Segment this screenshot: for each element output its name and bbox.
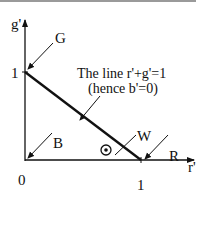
- point-label-r: R: [169, 148, 179, 164]
- x-tick-label: 1: [137, 177, 145, 193]
- point-label-b: B: [53, 135, 63, 151]
- g-arrow: [28, 43, 53, 69]
- point-label-g: G: [55, 30, 66, 46]
- w-arrow: [115, 135, 136, 155]
- chromaticity-diagram: g' r' 1 0 1 G B R W The line r'+g'=1 (he…: [0, 0, 204, 227]
- white-point-dot: [104, 148, 108, 152]
- x-axis-label: r': [188, 159, 196, 175]
- annotation-line-1: The line r'+g'=1: [77, 66, 166, 81]
- annotation-arrow: [80, 96, 100, 120]
- y-axis-label: g': [11, 16, 22, 32]
- annotation-line-2: (hence b'=0): [88, 81, 158, 97]
- point-label-w: W: [137, 128, 152, 144]
- y-tick-label: 1: [11, 65, 19, 81]
- b-arrow: [28, 133, 52, 158]
- origin-label: 0: [18, 172, 26, 188]
